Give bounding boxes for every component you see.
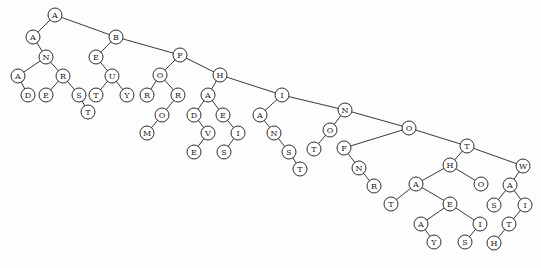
node-label: O [157, 71, 164, 80]
tree-node: O [323, 123, 337, 137]
tree-node: O [474, 177, 488, 191]
node-label: T [464, 142, 470, 151]
tree-node: D [187, 108, 201, 122]
node-label: A [417, 220, 424, 229]
node-label: T [93, 91, 99, 100]
tree-graphic: AANADRESTBEUTYFORROMHADVEEISIANSTNOTOFNR… [0, 0, 541, 268]
node-label: T [85, 108, 91, 117]
node-label: F [177, 51, 183, 60]
node-label: I [280, 91, 283, 100]
tree-node: V [201, 126, 215, 140]
tree-node: S [217, 145, 231, 159]
node-label: H [447, 161, 454, 170]
node-label: A [204, 91, 211, 100]
tree-node: O [153, 68, 167, 82]
tree-node: R [56, 69, 70, 83]
tree-edge [467, 146, 523, 166]
tree-edge [282, 95, 345, 110]
node-label: R [144, 91, 151, 100]
tree-node: R [367, 179, 381, 193]
node-label: N [342, 106, 349, 115]
node-label: S [491, 201, 496, 210]
node-label: R [371, 182, 378, 191]
tree-edge [220, 75, 282, 95]
node-label: I [478, 220, 481, 229]
node-label: E [43, 91, 49, 100]
node-label: S [462, 238, 467, 247]
tree-node: F [337, 141, 351, 155]
node-label: M [143, 129, 151, 138]
node-label: I [523, 201, 526, 210]
tree-node: Y [120, 88, 134, 102]
tree-edge [116, 37, 180, 55]
tree-node: A [201, 88, 215, 102]
node-label: N [356, 164, 363, 173]
node-label: A [29, 33, 36, 42]
node-label: S [286, 148, 291, 157]
node-label: A [412, 180, 419, 189]
tree-node: E [39, 88, 53, 102]
tree-diagram: AANADRESTBEUTYFORROMHADVEEISIANSTNOTOFNR… [0, 0, 541, 268]
node-label: T [297, 165, 303, 174]
tree-node: I [231, 126, 245, 140]
node-label: T [311, 145, 317, 154]
tree-node: B [109, 30, 123, 44]
node-label: H [491, 239, 498, 248]
tree-node: N [39, 50, 53, 64]
node-label: S [221, 148, 226, 157]
tree-node: A [11, 69, 25, 83]
tree-node: S [282, 145, 296, 159]
tree-node: A [48, 8, 62, 22]
node-label: F [341, 144, 347, 153]
node-label: Y [430, 238, 437, 247]
tree-node: T [81, 105, 95, 119]
tree-node: O [155, 108, 169, 122]
node-label: W [519, 162, 528, 171]
tree-edge [344, 128, 409, 148]
node-label: A [51, 11, 58, 20]
node-label: H [217, 71, 224, 80]
tree-node: T [384, 197, 398, 211]
node-label: U [109, 72, 116, 81]
tree-edge [345, 110, 409, 128]
tree-node: A [409, 177, 423, 191]
node-label: N [271, 129, 278, 138]
tree-node: E [443, 197, 457, 211]
tree-node: A [26, 30, 40, 44]
tree-node: Y [427, 235, 441, 249]
tree-node: O [402, 121, 416, 135]
tree-node: S [458, 235, 472, 249]
tree-node: R [171, 88, 185, 102]
tree-node: I [275, 88, 289, 102]
node-label: O [327, 126, 334, 135]
node-label: O [478, 180, 485, 189]
tree-node: T [89, 88, 103, 102]
tree-node: A [414, 217, 428, 231]
tree-node: A [503, 178, 517, 192]
node-label: E [93, 53, 99, 62]
tree-node: M [140, 126, 154, 140]
tree-node: E [89, 50, 103, 64]
tree-node: T [307, 142, 321, 156]
tree-edge [409, 128, 467, 146]
node-label: A [256, 111, 263, 120]
node-label: O [159, 111, 166, 120]
tree-node: R [140, 88, 154, 102]
node-label: V [204, 129, 211, 138]
tree-node: T [460, 139, 474, 153]
tree-node: E [187, 145, 201, 159]
tree-node: N [352, 161, 366, 175]
tree-node: I [518, 198, 532, 212]
node-label: D [191, 111, 197, 120]
node-label: D [25, 91, 31, 100]
node-label: T [388, 200, 394, 209]
tree-edge [55, 15, 116, 37]
tree-node: S [72, 88, 86, 102]
tree-node: W [516, 159, 530, 173]
tree-node: T [502, 217, 516, 231]
tree-node: E [216, 108, 230, 122]
tree-node: T [293, 162, 307, 176]
tree-node: D [21, 88, 35, 102]
node-label: O [406, 124, 413, 133]
tree-node: F [173, 48, 187, 62]
